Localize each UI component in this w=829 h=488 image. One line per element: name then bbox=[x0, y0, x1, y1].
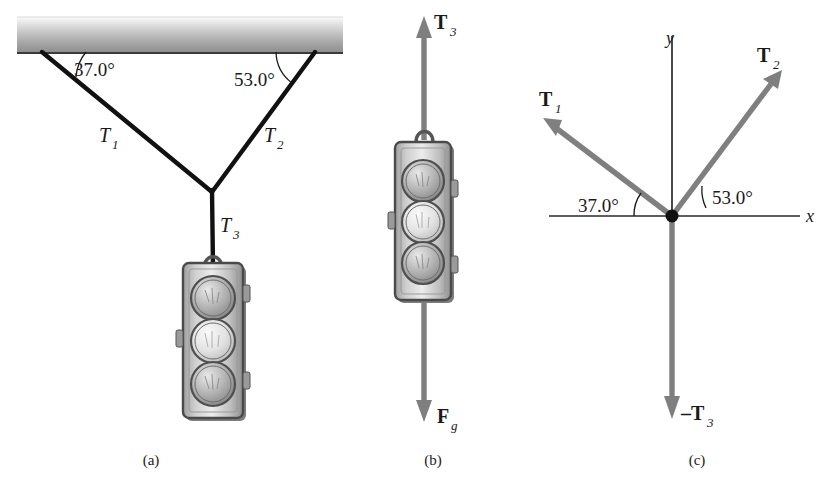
origin-dot bbox=[666, 210, 679, 223]
tension-label-t2-letter: T bbox=[264, 124, 277, 146]
axis-label-y: y bbox=[664, 28, 674, 48]
tension-label-t2-panel-a: T 2 bbox=[264, 124, 284, 152]
panel-a: 37.0° 53.0° T 1 T 2 T 3 bbox=[17, 17, 343, 421]
panel-caption-c: (c) bbox=[677, 452, 717, 469]
vector-t3-negative-panel-c bbox=[664, 216, 680, 419]
force-label-t3-panel-b: T 3 bbox=[434, 11, 457, 39]
force-vector-fg-panel-b bbox=[416, 300, 432, 422]
force-label-fg-letter: F bbox=[437, 405, 449, 427]
force-vector-t3-panel-b bbox=[416, 16, 432, 140]
tension-label-t3-letter: T bbox=[220, 214, 233, 236]
tension-label-t3-subscript: 3 bbox=[232, 227, 240, 242]
angle-label-53-panel-a: 53.0° bbox=[234, 69, 275, 90]
tension-label-t1-letter: T bbox=[99, 124, 112, 146]
panel-caption-b: (b) bbox=[413, 452, 453, 469]
tension-label-t1-panel-a: T 1 bbox=[99, 124, 119, 152]
axis-label-x: x bbox=[805, 206, 814, 226]
vector-label-t1-panel-c: T 1 bbox=[539, 88, 562, 116]
force-label-fg-subscript: g bbox=[451, 418, 458, 433]
vector-label-t2-letter: T bbox=[757, 44, 771, 66]
force-label-fg-panel-b: F g bbox=[437, 405, 458, 433]
angle-arc-53-panel-c bbox=[702, 186, 706, 208]
traffic-light-b bbox=[388, 132, 458, 304]
angle-arc-53-panel-a bbox=[276, 52, 292, 83]
physics-figure: 37.0° 53.0° T 1 T 2 T 3 bbox=[0, 0, 829, 488]
vector-label-t1-letter: T bbox=[539, 88, 553, 110]
tension-label-t2-subscript: 2 bbox=[277, 137, 284, 152]
force-label-t3-letter: T bbox=[434, 11, 448, 33]
figure-canvas: 37.0° 53.0° T 1 T 2 T 3 bbox=[0, 0, 829, 488]
panel-c: x y T 1 T 2 –T 3 37.0° 53.0° bbox=[539, 28, 814, 430]
panel-b: T 3 F g bbox=[388, 11, 458, 433]
angle-label-37-panel-c: 37.0° bbox=[578, 195, 619, 216]
force-label-t3-subscript: 3 bbox=[449, 24, 457, 39]
tension-label-t1-subscript: 1 bbox=[112, 137, 119, 152]
angle-arc-37-panel-c bbox=[634, 193, 641, 216]
angle-label-53-panel-c: 53.0° bbox=[712, 187, 753, 208]
tension-label-t3-panel-a: T 3 bbox=[220, 214, 240, 242]
cable-t1 bbox=[42, 52, 212, 192]
vector-label-t1-subscript: 1 bbox=[555, 101, 562, 116]
vector-label-t3-subscript: 3 bbox=[706, 415, 714, 430]
support-beam bbox=[17, 17, 343, 53]
vector-label-t3-negative-panel-c: –T 3 bbox=[680, 402, 714, 430]
vector-label-t3-letter: –T bbox=[680, 402, 705, 424]
vector-label-t2-panel-c: T 2 bbox=[757, 44, 780, 72]
traffic-light-a bbox=[176, 257, 250, 421]
panel-caption-a: (a) bbox=[131, 452, 171, 469]
vector-label-t2-subscript: 2 bbox=[773, 57, 780, 72]
angle-label-37-panel-a: 37.0° bbox=[74, 59, 115, 80]
